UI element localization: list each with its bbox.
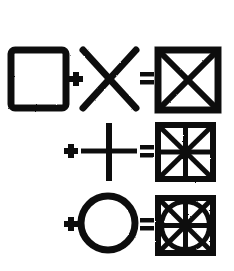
equals-bottom-bar [140, 226, 154, 231]
equals-top-bar [140, 145, 154, 150]
plus-vertical-bar [68, 144, 74, 158]
plus-vertical-bar [73, 72, 79, 86]
equals-top-bar [140, 218, 154, 223]
geometric-equation-figure [0, 0, 234, 271]
plus-vertical-bar [68, 217, 74, 231]
equals-bottom-bar [140, 80, 154, 85]
figure-canvas [0, 0, 234, 271]
equals-bottom-bar [140, 153, 154, 158]
equals-top-bar [140, 72, 154, 77]
row2-result-square-with-diagonals-and-cross [158, 125, 213, 179]
row3-result-square-with-diagonals-cross-and-circle [158, 198, 213, 253]
